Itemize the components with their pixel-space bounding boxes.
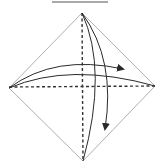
vertical-crease-line: [82, 13, 83, 161]
origami-diagram: Square paper rotated as a diamond with v…: [0, 0, 162, 164]
diagram-svg: [0, 0, 162, 164]
